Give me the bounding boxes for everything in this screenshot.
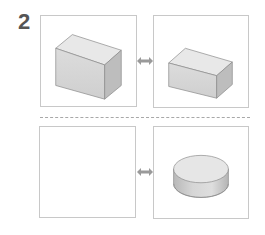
problem-number: 2 [18, 11, 30, 33]
cylinder-disc-icon [154, 127, 248, 218]
double-arrow-icon [137, 168, 153, 176]
double-arrow-icon [137, 57, 153, 65]
dashed-divider [40, 117, 250, 118]
panel-row1-right [153, 15, 249, 108]
panel-row2-left-empty [39, 126, 136, 218]
panel-row1-left [40, 15, 137, 107]
panel-row2-right [153, 126, 249, 219]
tall-box-icon [41, 16, 136, 106]
wide-box-icon [154, 16, 248, 107]
